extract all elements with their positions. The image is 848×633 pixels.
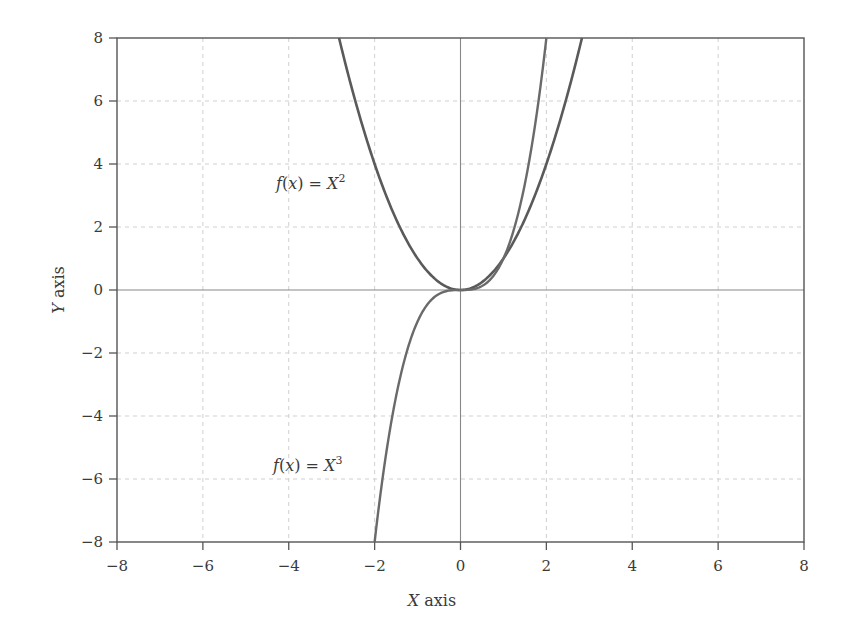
annotation-sq-sup: 2	[338, 172, 345, 185]
y-tick-label: 8	[93, 29, 103, 47]
y-tick-label: −8	[81, 533, 103, 551]
x-axis-label-var: X	[406, 591, 420, 610]
x-tick-label: −2	[364, 557, 386, 575]
y-tick-label: 6	[93, 92, 103, 110]
y-tick-labels: −8−6−4−202468	[81, 29, 103, 551]
annotation-cube-sup: 3	[335, 454, 342, 467]
function-plot: −8−6−4−202468 −8−6−4−202468 X axis Y axi…	[0, 0, 848, 633]
x-tick-label: 0	[456, 557, 466, 575]
y-tick-label: −4	[81, 407, 103, 425]
x-tick-labels: −8−6−4−202468	[106, 557, 809, 575]
x-tick-label: 8	[799, 557, 809, 575]
axis-ticks	[109, 38, 804, 550]
y-tick-label: 2	[93, 218, 103, 236]
y-tick-label: 4	[93, 155, 103, 173]
y-tick-label: −2	[81, 344, 103, 362]
y-tick-label: −6	[81, 470, 103, 488]
x-axis-label-text: axis	[419, 591, 456, 610]
x-tick-label: 6	[713, 557, 723, 575]
x-axis-label: X axis	[406, 591, 456, 610]
y-axis-label-text: axis	[49, 266, 68, 303]
annotation-x-squared: f(x) = X2	[275, 172, 345, 193]
x-tick-label: −6	[192, 557, 214, 575]
x-tick-label: −4	[278, 557, 300, 575]
x-tick-label: 4	[627, 557, 637, 575]
x-tick-label: 2	[542, 557, 552, 575]
y-axis-label: Y axis	[49, 266, 68, 314]
y-tick-label: 0	[93, 281, 103, 299]
annotation-x-cubed: f(x) = X3	[272, 454, 342, 475]
x-tick-label: −8	[106, 557, 128, 575]
